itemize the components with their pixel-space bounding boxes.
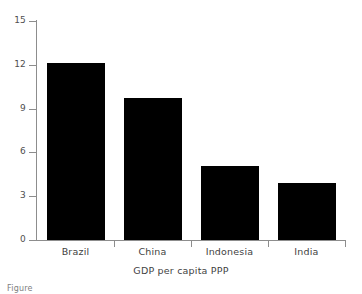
y-axis-tick-label: 6 [2,147,26,156]
bar [201,166,259,240]
x-axis-category-label: Brazil [37,247,114,257]
bar [124,98,182,240]
y-axis-tick-label: 15 [2,16,26,25]
x-axis-end-tick-mark [345,241,346,247]
caption-fragment: Figure [7,284,33,293]
y-axis-tick-mark [29,109,37,110]
plot-area [37,21,345,240]
y-axis-tick-label: 0 [2,235,26,244]
y-axis-tick-mark [29,196,37,197]
y-axis-tick-mark [29,152,37,153]
bar [278,183,336,240]
y-axis-tick-mark [29,21,37,22]
x-axis-category-label: China [114,247,191,257]
y-axis-tick-label: 12 [2,60,26,69]
x-axis-title: GDP per capita PPP [0,265,362,276]
bar-chart-figure: 03691215 BrazilChinaIndonesiaIndia GDP p… [0,0,362,294]
y-axis-tick-mark [29,240,37,241]
y-axis-tick-mark [29,65,37,66]
bar [47,63,105,240]
y-axis-tick-label: 3 [2,191,26,200]
y-axis-tick-label: 9 [2,104,26,113]
x-axis-category-label: Indonesia [191,247,268,257]
x-axis-category-label: India [268,247,345,257]
